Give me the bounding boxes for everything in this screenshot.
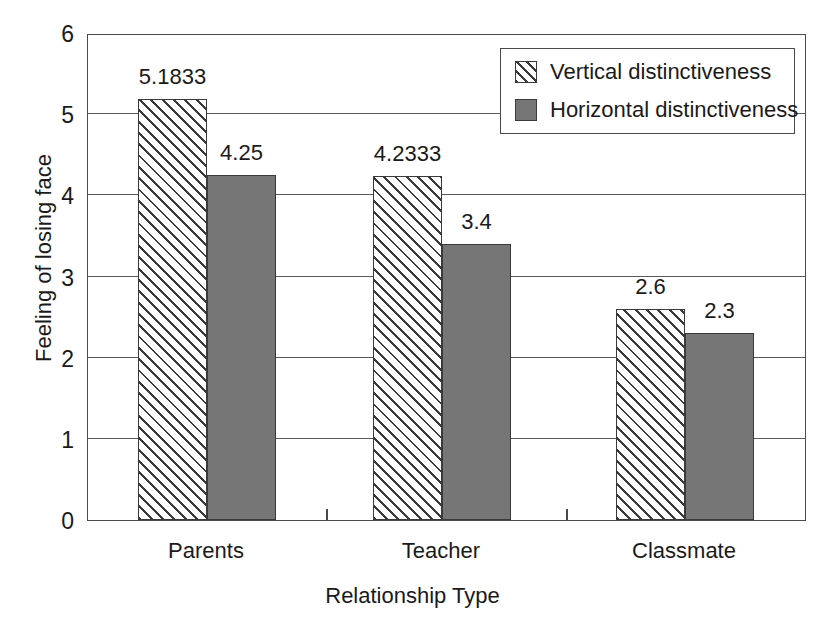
x-minor-tick <box>326 509 328 520</box>
legend-item-horizontal-distinctiveness: Horizontal distinctiveness <box>515 97 798 123</box>
bar-value-label: 5.1833 <box>139 64 206 90</box>
x-axis-title: Relationship Type <box>0 583 825 609</box>
bar-value-label: 2.6 <box>635 274 666 300</box>
legend-label: Vertical distinctiveness <box>550 59 771 85</box>
x-category-label: Parents <box>168 538 244 564</box>
legend: Vertical distinctiveness Horizontal dist… <box>500 48 795 134</box>
bar <box>373 176 442 520</box>
y-tick-label: 0 <box>14 510 74 533</box>
legend-swatch-hatched-icon <box>515 61 537 83</box>
legend-label: Horizontal distinctiveness <box>550 97 798 123</box>
x-category-label: Teacher <box>402 538 480 564</box>
x-minor-tick <box>566 509 568 520</box>
legend-swatch-gray-icon <box>515 99 537 121</box>
bar-value-label: 4.2333 <box>374 141 441 167</box>
bar-value-label: 3.4 <box>461 209 492 235</box>
bar-chart: 0123456 Feeling of losing face 5.18334.2… <box>0 0 825 618</box>
legend-item-vertical-distinctiveness: Vertical distinctiveness <box>515 59 771 85</box>
bar-value-label: 2.3 <box>704 298 735 324</box>
x-category-label: Classmate <box>632 538 736 564</box>
bar <box>138 99 207 520</box>
bar <box>616 309 685 520</box>
bar <box>685 333 754 520</box>
bar <box>207 175 276 520</box>
y-axis-title: Feeling of losing face <box>31 18 57 498</box>
bar <box>442 244 511 520</box>
bar-value-label: 4.25 <box>220 140 263 166</box>
